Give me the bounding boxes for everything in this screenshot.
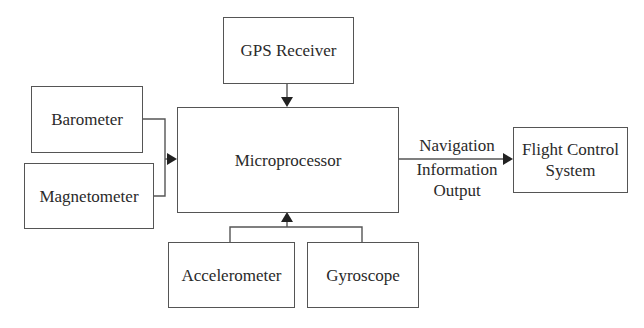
accelerometer-label: Accelerometer <box>181 265 281 286</box>
flight-control-label-line1: Flight Control <box>522 139 619 160</box>
magnetometer-block: Magnetometer <box>24 163 154 229</box>
barometer-block: Barometer <box>31 86 143 153</box>
gyroscope-block: Gyroscope <box>307 242 419 308</box>
output-label-line2: Information <box>405 159 509 180</box>
flight-control-system-block: Flight Control System <box>513 127 628 193</box>
microprocessor-label: Microprocessor <box>235 150 342 171</box>
gps-receiver-block: GPS Receiver <box>223 17 354 84</box>
arrowhead-bottom <box>281 212 293 222</box>
output-label-line1: Navigation <box>405 135 509 156</box>
microprocessor-block: Microprocessor <box>177 107 399 213</box>
arrowhead-gps <box>281 97 293 107</box>
magnetometer-label: Magnetometer <box>39 186 138 207</box>
arrowhead-left <box>167 153 177 165</box>
gyroscope-label: Gyroscope <box>326 265 400 286</box>
output-edge-label: Navigation Information Output <box>405 135 509 201</box>
flight-control-label-line2: System <box>545 160 595 181</box>
barometer-label: Barometer <box>51 109 123 130</box>
output-label-line3: Output <box>405 180 509 201</box>
accelerometer-block: Accelerometer <box>168 242 295 308</box>
gps-receiver-label: GPS Receiver <box>241 40 337 61</box>
